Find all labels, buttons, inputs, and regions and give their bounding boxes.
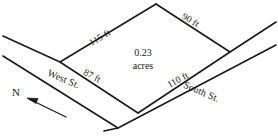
north-arrow-head xyxy=(27,98,38,104)
compass-north-label: N xyxy=(12,87,20,99)
west-street-lower-line xyxy=(3,56,118,128)
parcel-area-value: 0.23 xyxy=(122,47,164,60)
parcel-area-block: 0.23 acres xyxy=(122,47,164,72)
west-street-upper-line xyxy=(3,36,60,62)
land-parcel-survey-diagram: 115 ft 90 ft 87 ft 110 ft 0.23 acres Wes… xyxy=(0,0,278,139)
parcel-area-unit: acres xyxy=(122,60,164,73)
west-street-junction-return xyxy=(104,128,118,131)
south-street-upper-line xyxy=(230,22,276,52)
